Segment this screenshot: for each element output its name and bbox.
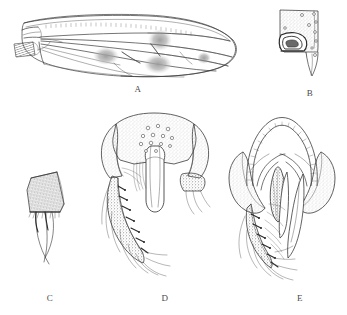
lateral-lobe-right [299,152,335,213]
terminalia-dorsal-drawing [96,112,214,284]
wing-cloud-4 [197,52,211,64]
epandrium-inner-striae [134,162,146,191]
hooked-process [279,33,307,51]
wing-cloud-3 [144,54,172,74]
panel-label-b: B [302,88,318,98]
panel-label-e: E [292,293,308,303]
long-setae [36,212,54,264]
gonostylus [107,176,144,263]
accessory-lobe-setae [186,190,210,214]
panel-a-wing [8,6,248,82]
wing-drawing [8,6,248,82]
surstylus-outer [288,174,304,258]
phallic-process [145,146,165,212]
panel-label-c: C [42,293,58,303]
gonostylus [246,204,272,268]
panel-label-a: A [130,84,146,94]
lateral-lobe-left [229,152,265,213]
panel-d-terminalia-dorsal [96,112,214,284]
terminalia-ventral-drawing [225,112,343,284]
figure-plate: A [0,0,347,315]
accessory-lobe-right [180,173,205,191]
panel-b-sclerite [272,8,334,84]
hairy-plate-drawing [24,168,84,283]
wing-cloud-1 [93,47,119,65]
sclerite-drawing [272,8,334,84]
panel-e-terminalia-ventral [225,112,343,284]
marginal-fringe [29,212,59,218]
panel-label-d: D [157,293,173,303]
panel-c-hairy-plate [24,168,84,283]
wing-cloud-2 [148,29,172,51]
